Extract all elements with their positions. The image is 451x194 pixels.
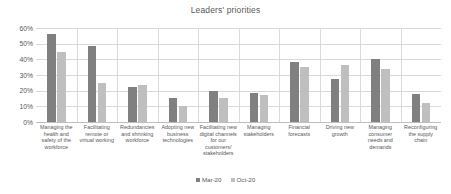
bar-group xyxy=(279,28,320,122)
y-axis-tick-label: 10% xyxy=(3,103,33,110)
chart-legend: Mar-20 Oct-20 xyxy=(0,176,451,183)
legend-swatch-icon xyxy=(196,178,200,182)
x-axis-tick-label: Financial forecasts xyxy=(279,124,320,157)
bar[interactable] xyxy=(260,95,269,122)
bar[interactable] xyxy=(412,94,421,122)
bar-group xyxy=(239,28,280,122)
legend-item-mar20[interactable]: Mar-20 xyxy=(196,176,222,183)
category-separator xyxy=(320,28,321,122)
y-axis-tick-label: 50% xyxy=(3,40,33,47)
bar[interactable] xyxy=(300,67,309,122)
category-separator xyxy=(158,28,159,122)
y-axis-tick-label: 40% xyxy=(3,56,33,63)
bar[interactable] xyxy=(381,69,390,122)
x-axis-tick-label: Managing consumer needs and demands xyxy=(360,124,401,157)
y-axis-tick-label: 30% xyxy=(3,72,33,79)
bar[interactable] xyxy=(98,83,107,122)
bar[interactable] xyxy=(341,65,350,122)
chart-title: Leaders' priorities xyxy=(0,5,451,15)
x-axis-tick-label: Driving new growth xyxy=(320,124,361,157)
x-axis-tick-label: Facilitating remote or virtual working xyxy=(77,124,118,157)
bar[interactable] xyxy=(179,106,188,122)
x-axis-tick-label: Redundancies and shrinking workforce xyxy=(117,124,158,157)
x-axis-line xyxy=(36,122,441,123)
legend-label: Oct-20 xyxy=(237,176,256,183)
category-separator xyxy=(239,28,240,122)
y-axis-tick-label: 0% xyxy=(3,119,33,126)
bar[interactable] xyxy=(57,52,66,122)
legend-label: Mar-20 xyxy=(202,176,222,183)
x-axis-tick-label: Facilitating new digital channels for ou… xyxy=(198,124,239,157)
bar[interactable] xyxy=(290,62,299,122)
bars-area xyxy=(36,28,441,122)
bar-group xyxy=(198,28,239,122)
bar[interactable] xyxy=(250,93,259,122)
bar-group xyxy=(360,28,401,122)
bar-group xyxy=(36,28,77,122)
bar[interactable] xyxy=(47,34,56,122)
x-axis-labels: Managing the health and safety of the wo… xyxy=(36,124,441,157)
y-axis-labels: 60%50%40%30%20%10%0% xyxy=(0,28,33,122)
category-separator xyxy=(117,28,118,122)
x-axis-tick-label: Managing stakeholders xyxy=(239,124,280,157)
x-axis-tick-label: Managing the health and safety of the wo… xyxy=(36,124,77,157)
y-axis-tick-label: 20% xyxy=(3,87,33,94)
bar-group xyxy=(77,28,118,122)
bar[interactable] xyxy=(128,87,137,122)
category-separator xyxy=(198,28,199,122)
bar[interactable] xyxy=(371,59,380,122)
category-separator xyxy=(360,28,361,122)
bar[interactable] xyxy=(422,103,431,122)
chart-container: Leaders' priorities 60%50%40%30%20%10%0%… xyxy=(0,0,451,194)
bar[interactable] xyxy=(331,79,340,122)
bar[interactable] xyxy=(138,85,147,122)
legend-item-oct20[interactable]: Oct-20 xyxy=(231,176,256,183)
y-axis-tick-label: 60% xyxy=(3,25,33,32)
bar-group xyxy=(117,28,158,122)
bar-group xyxy=(401,28,442,122)
category-separator xyxy=(401,28,402,122)
bar-group xyxy=(320,28,361,122)
category-separator xyxy=(77,28,78,122)
bar-group xyxy=(158,28,199,122)
bar[interactable] xyxy=(169,98,178,122)
bar[interactable] xyxy=(209,91,218,122)
category-separator xyxy=(279,28,280,122)
x-axis-tick-label: Adopting new business technologies xyxy=(158,124,199,157)
bar[interactable] xyxy=(219,98,228,122)
bar[interactable] xyxy=(88,46,97,122)
x-axis-tick-label: Reconfiguring the supply chain xyxy=(401,124,442,157)
legend-swatch-icon xyxy=(231,178,235,182)
